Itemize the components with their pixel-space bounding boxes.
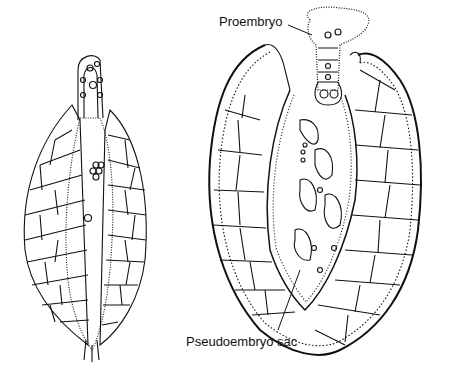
botanical-illustration: [0, 0, 453, 369]
proembryo-label: Proembryo: [219, 14, 283, 29]
pseudoembryo-sac-label: Pseudoembryo sac: [186, 334, 297, 349]
left-ovule-drawing: [24, 56, 146, 362]
right-ovule-drawing: [209, 7, 421, 355]
